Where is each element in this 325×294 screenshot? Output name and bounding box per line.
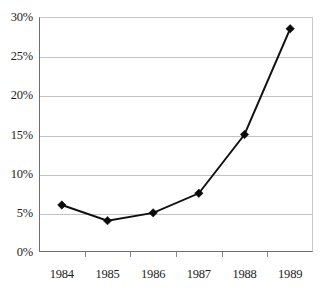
gridline (40, 214, 312, 215)
gridline (40, 57, 312, 58)
y-axis-tick-label: 10% (0, 168, 33, 181)
x-axis-tick-label: 1988 (219, 268, 271, 281)
y-axis-tick-label: 25% (0, 50, 33, 63)
y-axis-tick-label: 30% (0, 11, 33, 24)
line-chart: 0%5%10%15%20%25%30% 19841985198619871988… (0, 0, 325, 294)
gridline (40, 175, 312, 176)
gridline (40, 136, 312, 137)
y-axis-tick-label: 5% (0, 207, 33, 220)
x-axis-tick-label: 1984 (36, 268, 88, 281)
x-axis-tick-mark (85, 252, 86, 257)
gridline (40, 96, 312, 97)
x-axis-tick-label: 1987 (173, 268, 225, 281)
x-axis-tick-label: 1985 (82, 268, 134, 281)
y-axis-tick-label: 0% (0, 246, 33, 259)
y-axis-tick-label: 20% (0, 89, 33, 102)
x-axis-tick-mark (222, 252, 223, 257)
y-axis-tick-label: 15% (0, 129, 33, 142)
plot-area (39, 17, 313, 252)
x-axis-tick-label: 1986 (127, 268, 179, 281)
x-axis-tick-label: 1989 (264, 268, 316, 281)
x-axis-tick-mark (176, 252, 177, 257)
x-axis-tick-mark (267, 252, 268, 257)
x-axis-tick-mark (130, 252, 131, 257)
